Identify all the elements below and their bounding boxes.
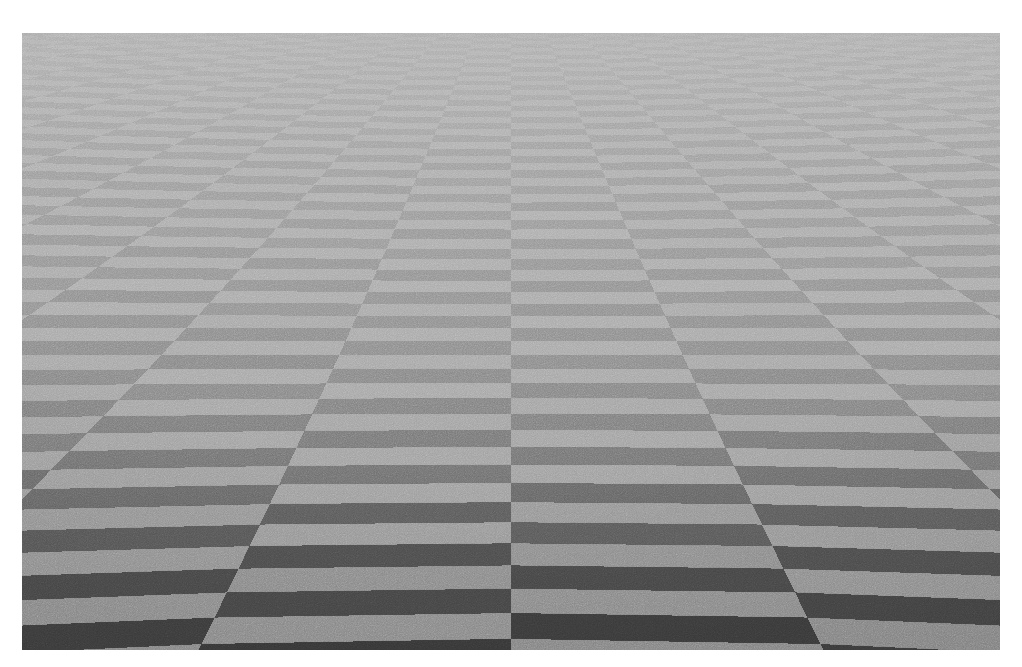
perspective-floor-svg (22, 33, 1000, 650)
checkerboard-plate (22, 33, 1000, 650)
image-canvas: Perspective checkerboard ground plane A … (0, 0, 1022, 667)
